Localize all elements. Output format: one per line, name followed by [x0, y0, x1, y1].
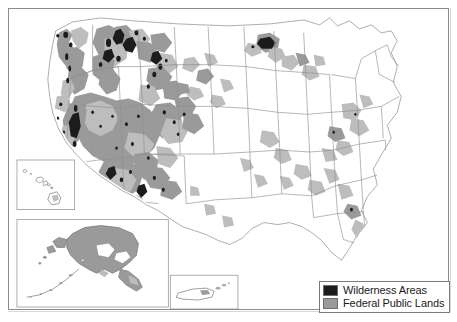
- map-legend: Wilderness Areas Federal Public Lands: [319, 281, 450, 313]
- legend-label-wilderness-areas: Wilderness Areas: [343, 285, 427, 296]
- federal-lands-swatch: [323, 298, 338, 309]
- map-frame: Wilderness Areas Federal Public Lands: [8, 8, 449, 310]
- puerto-rico-inset: [170, 275, 238, 309]
- alaska-inset: [17, 220, 168, 307]
- legend-item-wilderness-areas: Wilderness Areas: [323, 284, 446, 297]
- map-canvas: [9, 9, 448, 309]
- hawaii-inset: [17, 160, 75, 210]
- legend-label-federal-public-lands: Federal Public Lands: [343, 298, 444, 309]
- wilderness-swatch: [323, 285, 338, 296]
- legend-item-federal-public-lands: Federal Public Lands: [323, 298, 446, 311]
- map-figure: Wilderness Areas Federal Public Lands: [0, 0, 457, 322]
